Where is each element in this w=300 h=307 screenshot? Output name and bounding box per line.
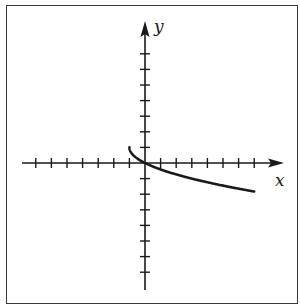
axes [22, 21, 284, 290]
coordinate-plane: y x [0, 0, 300, 307]
x-axis-label: x [275, 170, 285, 190]
y-axis-label: y [153, 16, 164, 36]
function-curve [129, 147, 254, 191]
